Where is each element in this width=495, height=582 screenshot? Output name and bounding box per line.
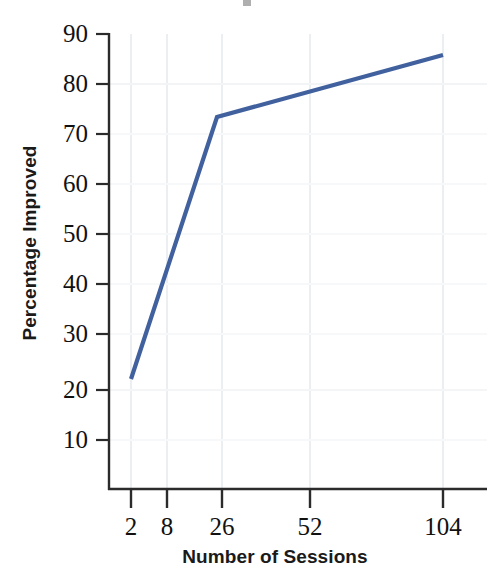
x-tick-label-104: 104 [403, 514, 483, 539]
x-axis-title: Number of Sessions [95, 546, 455, 568]
x-tick-label-52: 52 [270, 514, 350, 539]
y-tick-label-70: 70 [26, 121, 88, 146]
y-tick-label-60: 60 [26, 171, 88, 196]
y-tick-label-40: 40 [26, 271, 88, 296]
y-tick-label-90: 90 [26, 21, 88, 46]
x-axis-ticks [131, 489, 443, 508]
y-tick-label-30: 30 [26, 321, 88, 346]
y-tick-label-80: 80 [26, 71, 88, 96]
horizontal-gridlines [108, 84, 487, 440]
data-series-line [131, 55, 443, 379]
y-tick-label-50: 50 [26, 221, 88, 246]
y-axis-ticks [96, 34, 109, 440]
x-tick-label-26: 26 [182, 514, 262, 539]
y-tick-label-20: 20 [26, 377, 88, 402]
vertical-gridlines [131, 34, 443, 490]
y-tick-label-10: 10 [26, 427, 88, 452]
chart-container: 90 80 70 60 50 40 30 20 10 2 8 26 52 104… [0, 0, 495, 582]
